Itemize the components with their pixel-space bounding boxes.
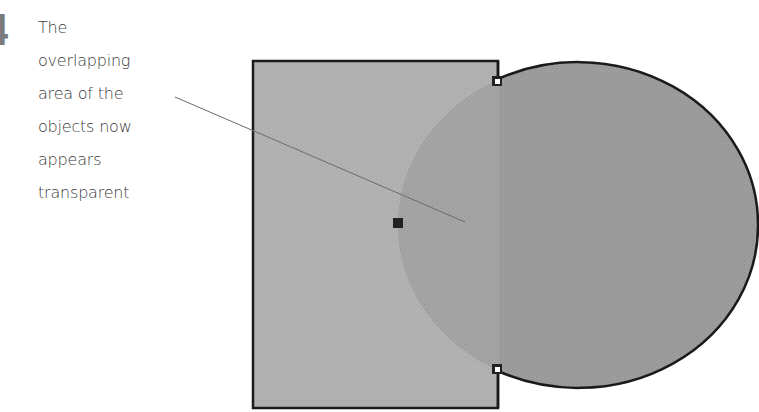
bottom-right-handle[interactable] [492, 364, 502, 374]
center-handle[interactable] [393, 218, 403, 228]
top-right-handle[interactable] [492, 76, 502, 86]
illustration [0, 0, 759, 412]
